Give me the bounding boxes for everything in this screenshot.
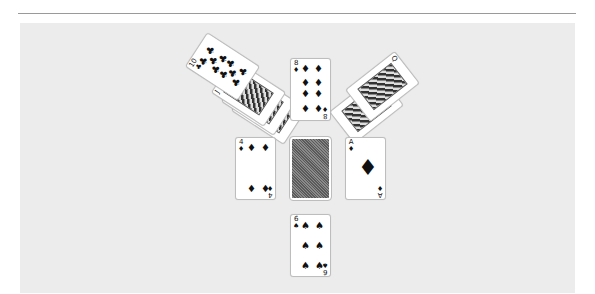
card-rank: J [214, 89, 221, 95]
diamond-pip-icon: ♦ [261, 143, 270, 153]
card-rank-bottom: 6♠ [322, 261, 328, 275]
card-8-diamonds[interactable]: 8♦ ♦ ♦ ♦ ♦ ♦ ♦ ♦ ♦ 8♦ [290, 58, 331, 121]
spade-pip-icon: ♠ [301, 221, 310, 231]
card-4-diamonds[interactable]: 4♦ ♦ ♦ ♦ ♦ 4♦ [235, 137, 276, 200]
spade-pip-icon: ♠ [301, 261, 310, 271]
card-rank: 8♦ [293, 60, 299, 74]
diamond-pip-icon: ♦ [358, 157, 378, 179]
card-rank-bottom: 4♦ [267, 184, 273, 198]
stock-pile[interactable] [290, 137, 331, 200]
diamond-pip-icon: ♦ [247, 143, 256, 153]
diamond-pip-icon: ♦ [247, 184, 256, 194]
diamond-pip-icon: ♦ [301, 104, 310, 114]
card-rank-bottom: 8♦ [322, 105, 328, 119]
game-table: K Q J 10♣ ♣ ♣ ♣ ♣ ♣ ♣ ♣ ♣ ♣ ♣ 8♦ ♦ ♦ ♦ [20, 23, 575, 293]
card-ace-diamonds[interactable]: A♦ ♦ A♦ [345, 137, 386, 200]
diamond-pip-icon: ♦ [314, 78, 323, 88]
card-rank-bottom: A♦ [377, 184, 383, 198]
card-rank: 6♠ [293, 216, 299, 230]
spade-pip-icon: ♠ [315, 221, 324, 231]
diamond-pip-icon: ♦ [314, 89, 323, 99]
spade-pip-icon: ♠ [315, 241, 324, 251]
club-pip-icon: ♣ [230, 76, 243, 89]
top-divider [18, 13, 576, 14]
club-pip-icon: ♣ [237, 65, 250, 78]
card-rank: 4♦ [238, 139, 244, 153]
diamond-pip-icon: ♦ [314, 64, 323, 74]
diamond-pip-icon: ♦ [301, 64, 310, 74]
spade-pip-icon: ♠ [301, 241, 310, 251]
card-rank: A♦ [348, 139, 354, 153]
card-6-spades[interactable]: 6♠ ♠ ♠ ♠ ♠ ♠ ♠ 6♠ [290, 214, 331, 277]
diamond-pip-icon: ♦ [301, 89, 310, 99]
diamond-pip-icon: ♦ [301, 78, 310, 88]
